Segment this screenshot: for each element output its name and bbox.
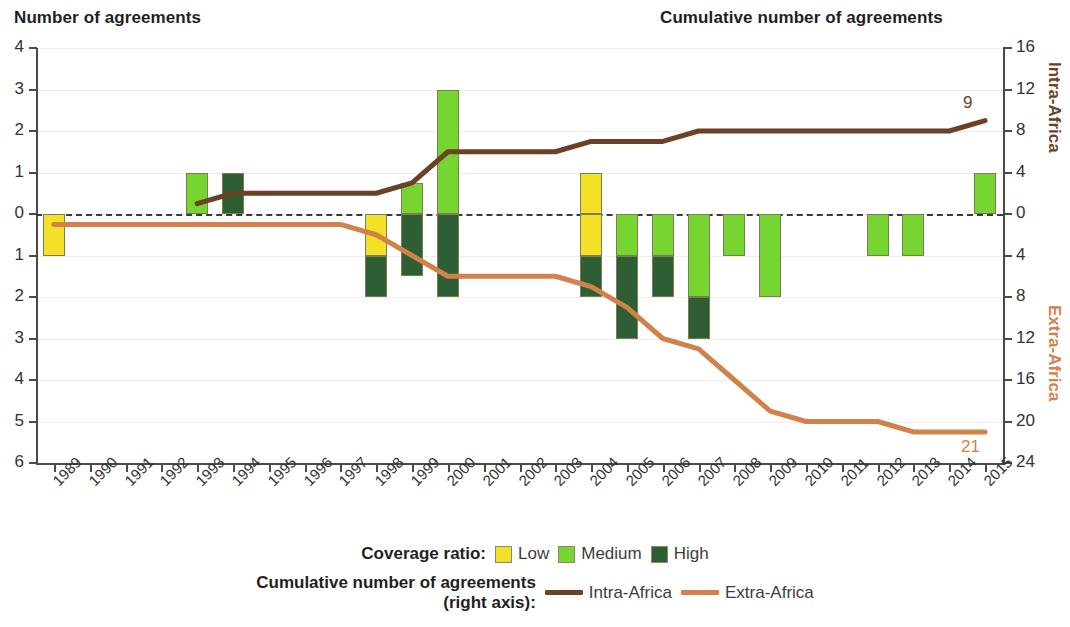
legend-cumulative-label: Cumulative number of agreements (right a… xyxy=(256,573,536,612)
line-end-label-intra-africa: 9 xyxy=(963,93,972,113)
x-axis-tick-label: 2004 xyxy=(586,453,622,489)
bar-segment[interactable] xyxy=(688,214,710,297)
right-axis-tick-label: 16 xyxy=(1016,369,1046,389)
bar-segment[interactable] xyxy=(759,214,781,297)
bar-segment[interactable] xyxy=(186,173,208,215)
legend-text-high: High xyxy=(674,544,709,564)
legend-text-low: Low xyxy=(518,544,549,564)
bar-segment[interactable] xyxy=(867,214,889,256)
bar-segment[interactable] xyxy=(652,256,674,298)
legend-swatch-medium xyxy=(558,546,575,563)
left-axis-tick-label: 4 xyxy=(0,369,24,389)
right-axis-tick xyxy=(1003,255,1012,257)
left-axis-tick xyxy=(29,379,37,381)
line-end-label-extra-africa: 21 xyxy=(961,437,980,457)
legend-coverage-label: Coverage ratio: xyxy=(361,544,486,564)
legend-item-intra-africa[interactable]: Intra-Africa xyxy=(545,583,672,603)
legend-swatch-low xyxy=(495,546,512,563)
left-axis-tick xyxy=(29,89,37,91)
x-axis-tick-label: 1996 xyxy=(300,453,336,489)
bar-segment[interactable] xyxy=(974,173,996,215)
left-axis-tick-label: 0 xyxy=(0,203,24,223)
left-axis-title: Number of agreements xyxy=(14,8,201,28)
x-axis-tick-label: 1991 xyxy=(121,453,157,489)
right-axis-tick xyxy=(1003,213,1012,215)
bar-segment[interactable] xyxy=(365,256,387,298)
x-axis-tick-label: 2010 xyxy=(801,453,837,489)
right-axis-tick-label: 8 xyxy=(1016,120,1046,140)
left-axis-tick-label: 2 xyxy=(0,120,24,140)
x-axis-tick-label: 2000 xyxy=(443,453,479,489)
x-axis-tick-label: 2003 xyxy=(550,453,586,489)
right-axis-tick-label: 12 xyxy=(1016,328,1046,348)
x-axis-tick-label: 2007 xyxy=(694,453,730,489)
left-axis-tick-label: 4 xyxy=(0,37,24,57)
left-axis-tick xyxy=(29,296,37,298)
right-axis-group-intra-africa: Intra-Africa xyxy=(1044,62,1064,153)
left-axis-tick xyxy=(29,130,37,132)
right-axis-tick xyxy=(1003,296,1012,298)
gridline xyxy=(36,131,1003,132)
x-axis-tick-label: 2005 xyxy=(622,453,658,489)
bar-segment[interactable] xyxy=(723,214,745,256)
legend-text-extra-africa: Extra-Africa xyxy=(725,583,814,603)
bar-segment[interactable] xyxy=(401,214,423,276)
right-axis-tick-label: 16 xyxy=(1016,37,1046,57)
legend-item-extra-africa[interactable]: Extra-Africa xyxy=(681,583,814,603)
left-axis-tick xyxy=(29,255,37,257)
bar-segment[interactable] xyxy=(365,214,387,256)
left-axis-tick-label: 3 xyxy=(0,79,24,99)
x-axis-tick-label: 1994 xyxy=(228,453,264,489)
right-axis-tick xyxy=(1003,421,1012,423)
legend-line-intra-africa xyxy=(545,590,583,595)
bar-segment[interactable] xyxy=(902,214,924,256)
bar-segment[interactable] xyxy=(580,214,602,256)
bar-segment[interactable] xyxy=(652,214,674,256)
right-axis-tick xyxy=(1003,379,1012,381)
left-axis-tick-label: 6 xyxy=(0,452,24,472)
legend-item-low[interactable]: Low xyxy=(495,544,549,564)
left-axis-tick-label: 1 xyxy=(0,245,24,265)
right-axis-tick-label: 8 xyxy=(1016,286,1046,306)
x-axis-tick-label: 2008 xyxy=(729,453,765,489)
x-axis-tick-label: 2009 xyxy=(765,453,801,489)
x-axis-tick-label: 1997 xyxy=(335,453,371,489)
legend-swatch-high xyxy=(651,546,668,563)
bar-segment[interactable] xyxy=(616,256,638,339)
bar-segment[interactable] xyxy=(43,214,65,256)
legend-text-intra-africa: Intra-Africa xyxy=(589,583,672,603)
right-axis-group-extra-africa: Extra-Africa xyxy=(1044,305,1064,401)
bar-segment[interactable] xyxy=(616,214,638,256)
x-axis-tick-label: 1993 xyxy=(192,453,228,489)
left-axis-tick xyxy=(29,172,37,174)
gridline xyxy=(36,380,1003,381)
x-axis-tick-label: 2002 xyxy=(515,453,551,489)
bar-segment[interactable] xyxy=(688,297,710,339)
cumulative-lines-layer xyxy=(0,0,1070,627)
legend-item-medium[interactable]: Medium xyxy=(558,544,641,564)
bar-segment[interactable] xyxy=(437,90,459,215)
legend-coverage-row: Coverage ratio: Low Medium High xyxy=(0,544,1070,564)
bar-segment[interactable] xyxy=(437,214,459,297)
legend-item-high[interactable]: High xyxy=(651,544,709,564)
right-axis-tick-label: 0 xyxy=(1016,203,1046,223)
left-axis-tick xyxy=(29,421,37,423)
right-axis-tick-label: 12 xyxy=(1016,79,1046,99)
right-axis-tick-label: 24 xyxy=(1016,452,1046,472)
bar-segment[interactable] xyxy=(580,173,602,215)
x-axis-tick-label: 2001 xyxy=(479,453,515,489)
x-axis-tick-label: 2011 xyxy=(837,454,872,489)
x-axis-tick-label: 1989 xyxy=(49,453,85,489)
left-axis-tick xyxy=(29,462,37,464)
right-axis-tick xyxy=(1003,338,1012,340)
left-axis-tick-label: 1 xyxy=(0,162,24,182)
legend-cumulative-row: Cumulative number of agreements (right a… xyxy=(0,573,1070,612)
gridline xyxy=(36,173,1003,174)
left-axis-tick-label: 3 xyxy=(0,328,24,348)
right-axis-tick xyxy=(1003,47,1012,49)
gridline xyxy=(36,256,1003,257)
bar-segment[interactable] xyxy=(401,183,423,214)
x-axis-tick-label: 1992 xyxy=(156,453,192,489)
bar-segment[interactable] xyxy=(580,256,602,298)
bar-segment[interactable] xyxy=(222,173,244,215)
